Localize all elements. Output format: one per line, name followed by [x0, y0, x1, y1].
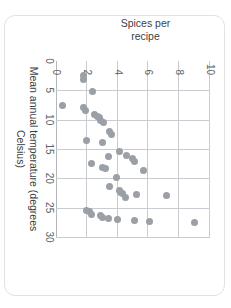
scatter-point: [105, 153, 112, 160]
x-gridline: [56, 149, 210, 150]
scatter-point: [114, 216, 121, 223]
x-tick-label: 5: [43, 76, 55, 104]
screenshot-root: 0510152025300246810 Mean annual temperat…: [0, 0, 231, 308]
x-tick-label: 20: [43, 164, 55, 192]
x-tick-label: 30: [43, 223, 55, 251]
y-gridline: [209, 61, 210, 237]
x-gridline: [56, 178, 210, 179]
x-axis-title-line1: Mean annual temperature: [28, 67, 40, 187]
scatter-point: [108, 131, 115, 138]
scatter-point: [89, 88, 96, 95]
y-gridline: [178, 61, 179, 237]
scatter-point: [83, 137, 90, 144]
y-axis-title-line1: Spices per: [96, 17, 196, 30]
scatter-point: [140, 167, 147, 174]
y-tick-label: 10: [204, 51, 216, 75]
scatter-point: [113, 174, 120, 181]
y-gridline: [147, 61, 148, 237]
rotated-figure-wrapper: 0510152025300246810 Mean annual temperat…: [0, 0, 231, 308]
y-tick-label: 0: [50, 51, 62, 75]
y-tick-label: 6: [142, 51, 154, 75]
x-gridline: [56, 120, 210, 121]
scatter-point: [131, 158, 138, 165]
scatter-point: [105, 215, 112, 222]
scatter-point: [102, 165, 109, 172]
y-axis-title-line2: recipe: [96, 29, 196, 42]
scatter-point: [146, 218, 153, 225]
scatter-point: [131, 217, 138, 224]
plot-area: 0510152025300246810: [56, 61, 210, 237]
scatter-point: [59, 102, 66, 109]
scatter-point: [99, 139, 106, 146]
scatter-point: [106, 183, 113, 190]
x-tick-label: 10: [43, 106, 55, 134]
scatter-point: [88, 160, 95, 167]
y-tick-label: 4: [112, 51, 124, 75]
scatter-chart: 0510152025300246810 Mean annual temperat…: [16, 15, 216, 293]
x-gridline: [56, 90, 210, 91]
scatter-point: [100, 119, 107, 126]
scatter-point: [88, 211, 95, 218]
x-tick-label: 25: [43, 194, 55, 222]
x-tick-label: 15: [43, 135, 55, 163]
x-gridline: [56, 208, 210, 209]
y-axis-title: Spices per recipe: [96, 17, 196, 42]
x-axis-title: Mean annual temperature (degrees Celsius…: [15, 61, 40, 237]
scatter-point: [82, 107, 89, 114]
scatter-point: [122, 194, 129, 201]
scatter-point: [116, 148, 123, 155]
y-tick-label: 8: [173, 51, 185, 75]
scatter-point: [163, 192, 170, 199]
scatter-point: [191, 219, 198, 226]
x-gridline: [56, 237, 210, 238]
scatter-point: [133, 191, 140, 198]
